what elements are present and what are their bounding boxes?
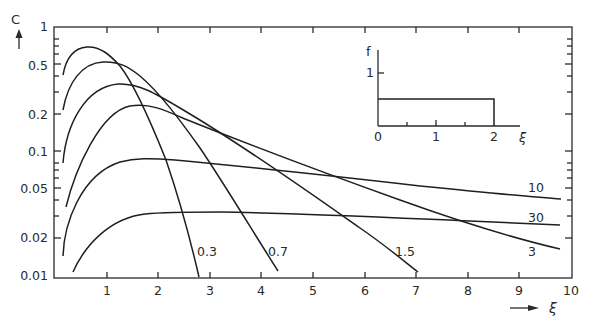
x-tick-4: 4 bbox=[257, 283, 265, 298]
x-tick-3: 3 bbox=[206, 283, 214, 298]
x-tick-1: 1 bbox=[103, 283, 111, 298]
y-tick-labels: 1 0.5 0.2 0.1 0.05 0.02 0.01 bbox=[20, 19, 48, 283]
y-axis-label: C bbox=[11, 12, 20, 27]
inset-y-tick-1: 1 bbox=[366, 65, 374, 80]
inset-y-label: f bbox=[366, 44, 371, 59]
x-tick-8: 8 bbox=[464, 283, 472, 298]
x-tick-2: 2 bbox=[154, 283, 162, 298]
y-tick-1: 1 bbox=[40, 19, 48, 34]
curve-label-0.3: 0.3 bbox=[197, 244, 217, 259]
inset-x-tick-2: 2 bbox=[490, 129, 498, 144]
inset-x-tick-1: 1 bbox=[432, 129, 440, 144]
curve-label-0.7: 0.7 bbox=[268, 244, 288, 259]
curve-10 bbox=[63, 159, 561, 256]
x-tick-5: 5 bbox=[309, 283, 317, 298]
up-arrow-icon bbox=[16, 29, 23, 49]
inset-x-tick-0: 0 bbox=[374, 129, 382, 144]
right-arrow-icon bbox=[510, 305, 539, 311]
y-tick-0.5: 0.5 bbox=[28, 58, 48, 73]
x-tick-6: 6 bbox=[361, 283, 369, 298]
curve-label-10: 10 bbox=[528, 180, 544, 195]
x-tick-7: 7 bbox=[412, 283, 420, 298]
curve-30 bbox=[73, 212, 560, 272]
concentration-chart: C 1 0.5 0.2 0.1 0.05 0.02 0.01 bbox=[0, 0, 596, 323]
curve-0.3 bbox=[63, 47, 199, 277]
x-tick-labels: 1 2 3 4 5 6 7 8 9 10 bbox=[103, 283, 579, 298]
x-axis-label: ξ bbox=[548, 300, 557, 316]
inset-chart: f 1 0 1 2 ξ bbox=[366, 44, 538, 145]
y-tick-0.02: 0.02 bbox=[20, 230, 48, 245]
x-tick-10: 10 bbox=[563, 283, 579, 298]
y-tick-0.1: 0.1 bbox=[28, 144, 48, 159]
inset-x-label: ξ bbox=[518, 130, 527, 145]
y-tick-0.01: 0.01 bbox=[20, 268, 48, 283]
x-tick-9: 9 bbox=[515, 283, 523, 298]
y-tick-0.05: 0.05 bbox=[20, 181, 48, 196]
curve-labels: 0.3 0.7 1.5 3 10 30 bbox=[197, 180, 544, 259]
curve-label-3: 3 bbox=[528, 244, 536, 259]
y-tick-0.2: 0.2 bbox=[28, 107, 48, 122]
curve-label-1.5: 1.5 bbox=[395, 244, 415, 259]
curve-label-30: 30 bbox=[528, 210, 544, 225]
